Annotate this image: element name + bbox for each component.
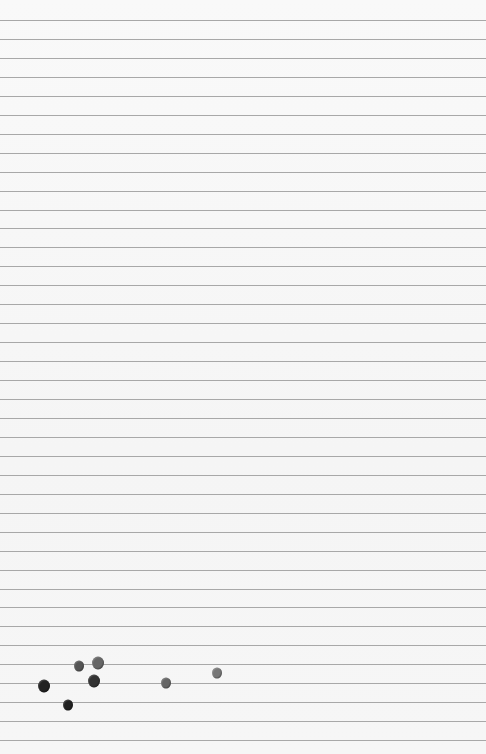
ruled-line (0, 475, 486, 476)
ink-dot (212, 668, 222, 679)
ruled-line (0, 304, 486, 305)
ruled-line (0, 39, 486, 40)
ruled-line (0, 20, 486, 21)
ruled-line (0, 191, 486, 192)
ruled-line (0, 342, 486, 343)
ruled-line (0, 380, 486, 381)
ruled-line (0, 228, 486, 229)
ruled-line (0, 513, 486, 514)
ink-dot (63, 700, 73, 711)
ruled-line (0, 285, 486, 286)
ruled-line (0, 115, 486, 116)
ruled-line (0, 153, 486, 154)
ruled-line (0, 664, 486, 665)
ruled-line (0, 96, 486, 97)
ruled-line (0, 702, 486, 703)
ruled-line (0, 418, 486, 419)
ink-dot (38, 680, 50, 693)
ink-dot (88, 675, 100, 688)
ruled-line (0, 437, 486, 438)
ruled-line (0, 323, 486, 324)
ruled-line (0, 532, 486, 533)
ruled-line (0, 740, 486, 741)
ruled-line (0, 399, 486, 400)
ink-dot (161, 678, 171, 689)
ink-dot (92, 657, 104, 670)
ruled-line (0, 721, 486, 722)
ruled-line (0, 607, 486, 608)
lined-paper (0, 0, 486, 754)
ruled-line (0, 570, 486, 571)
ruled-line (0, 456, 486, 457)
ruled-line (0, 172, 486, 173)
ruled-line (0, 247, 486, 248)
ruled-line (0, 683, 486, 684)
ink-dot (74, 661, 84, 672)
ruled-line (0, 626, 486, 627)
ruled-line (0, 361, 486, 362)
ruled-line (0, 551, 486, 552)
ruled-line (0, 645, 486, 646)
ruled-line (0, 494, 486, 495)
ruled-line (0, 77, 486, 78)
ruled-line (0, 266, 486, 267)
ruled-line (0, 58, 486, 59)
ruled-line (0, 589, 486, 590)
ruled-line (0, 134, 486, 135)
ruled-line (0, 210, 486, 211)
